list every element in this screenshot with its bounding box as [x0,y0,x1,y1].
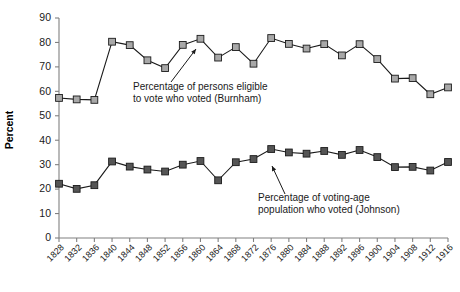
data-point-marker [73,96,80,103]
y-tick-label: 20 [39,182,51,194]
data-point-marker [197,35,204,42]
y-tick-group: 0102030405060708090 [39,11,59,243]
x-tick-label: 1828 [45,242,66,263]
x-tick-label: 1876 [257,242,278,263]
chart-container: 0102030405060708090 18281832183618401844… [0,0,460,292]
data-point-marker [427,167,434,174]
y-tick-label: 10 [39,207,51,219]
annotation-label: to vote who voted (Burnham) [133,93,261,104]
data-point-marker [144,57,151,64]
x-tick-label: 1888 [310,242,331,263]
data-point-marker [109,158,116,165]
data-point-marker [339,52,346,59]
data-point-marker [356,147,363,154]
x-tick-label: 1868 [221,242,242,263]
data-point-marker [392,164,399,171]
annotation-label: Percentage of persons eligible [133,81,268,92]
annotation-label: population who voted (Johnson) [258,204,400,215]
x-tick-label: 1884 [292,242,313,263]
y-tick-label: 80 [39,36,51,48]
data-point-marker [303,150,310,157]
annotation-arrow-line [171,49,196,82]
data-point-marker [285,41,292,48]
x-tick-label: 1864 [204,242,225,263]
x-tick-label: 1848 [133,242,154,263]
x-axis: 1828183218361840184418481852185618601864… [45,238,455,264]
y-tick-label: 90 [39,11,51,23]
x-tick-label: 1896 [345,242,366,263]
data-point-marker [409,163,416,170]
data-point-marker [56,180,63,187]
x-tick-group: 1828183218361840184418481852185618601864… [45,238,455,264]
data-point-marker [109,38,116,45]
data-point-marker [268,146,275,153]
annotation-label: Percentage of voting-age [258,192,370,203]
johnson-annotation: Percentage of voting-agepopulation who v… [258,166,400,215]
x-tick-label: 1860 [186,242,207,263]
x-tick-label: 1836 [80,242,101,263]
data-point-marker [56,95,63,102]
data-point-marker [445,84,452,91]
data-point-marker [197,158,204,165]
data-point-marker [409,75,416,82]
series-layer [56,35,452,193]
data-point-marker [268,35,275,42]
data-point-marker [126,163,133,170]
annotation-arrow-head [191,49,196,54]
data-point-marker [250,60,257,67]
burnham-annotation: Percentage of persons eligibleto vote wh… [133,49,268,104]
data-point-marker [321,41,328,48]
y-tick-label: 60 [39,85,51,97]
data-point-marker [73,185,80,192]
data-point-marker [303,45,310,52]
y-tick-label: 40 [39,134,51,146]
data-point-marker [250,156,257,163]
x-tick-label: 1904 [381,242,402,263]
data-point-marker [232,159,239,166]
data-point-marker [179,161,186,168]
y-tick-label: 30 [39,158,51,170]
data-point-marker [374,154,381,161]
data-point-marker [162,168,169,175]
data-point-marker [392,75,399,82]
data-point-marker [356,41,363,48]
data-point-marker [91,96,98,103]
x-tick-label: 1840 [98,242,119,263]
x-tick-label: 1844 [115,242,136,263]
data-point-marker [232,44,239,51]
x-tick-label: 1892 [328,242,349,263]
data-point-marker [91,182,98,189]
y-tick-label: 0 [45,231,51,243]
data-point-marker [162,65,169,72]
y-tick-label: 70 [39,60,51,72]
x-tick-label: 1832 [62,242,83,263]
annotation-layer: Percentage of persons eligibleto vote wh… [133,49,400,215]
data-point-marker [374,56,381,63]
x-tick-label: 1900 [363,242,384,263]
data-point-marker [179,41,186,48]
y-axis-title: Percent [3,110,15,149]
data-point-marker [339,151,346,158]
x-tick-label: 1908 [398,242,419,263]
data-point-marker [144,166,151,173]
data-point-marker [321,148,328,155]
data-point-marker [427,91,434,98]
x-tick-label: 1872 [239,242,260,263]
x-tick-label: 1856 [168,242,189,263]
y-axis: 0102030405060708090 [39,11,59,243]
y-tick-label: 50 [39,109,51,121]
data-point-marker [126,42,133,49]
x-tick-label: 1880 [275,242,296,263]
x-tick-label: 1912 [416,242,437,263]
x-tick-label: 1852 [151,242,172,263]
data-point-marker [215,177,222,184]
series-2 [56,146,452,193]
data-point-marker [285,149,292,156]
voter-turnout-line-chart: 0102030405060708090 18281832183618401844… [0,0,460,292]
series-line [59,149,448,189]
data-point-marker [445,159,452,166]
x-tick-label: 1916 [434,242,455,263]
data-point-marker [215,54,222,61]
